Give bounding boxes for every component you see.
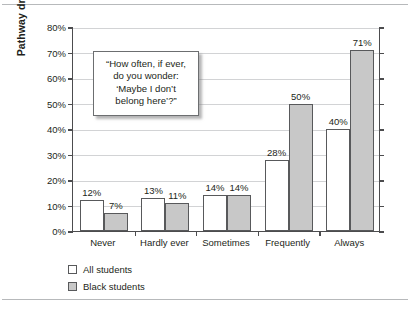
legend-item-all-students: All students	[68, 262, 145, 276]
bar[interactable]	[289, 104, 313, 232]
chart-figure: Pathway dropout 12%7%13%11%14%14%28%50%4…	[0, 0, 410, 312]
annotation-line-1: “How often, if ever,	[100, 58, 192, 70]
tick-left-70	[68, 53, 73, 54]
chart-legend: All students Black students	[68, 262, 145, 296]
bar[interactable]	[203, 195, 227, 231]
x-axis-label-hardly-ever: Hardly ever	[134, 236, 196, 249]
bar[interactable]	[227, 195, 251, 231]
x-axis-label-always: Always	[318, 236, 380, 249]
bar-value-label: 7%	[97, 200, 135, 211]
tick-left-0	[68, 231, 73, 232]
tick-right-10	[379, 206, 384, 207]
legend-swatch-black-students	[68, 282, 77, 291]
figure-top-rule	[2, 4, 408, 5]
y-tick-label-60: 60%	[20, 74, 66, 84]
tick-left-20	[68, 180, 73, 181]
tick-right-40	[379, 129, 384, 130]
y-tick-label-40: 40%	[20, 125, 66, 135]
tick-left-50	[68, 104, 73, 105]
annotation-line-3: ‘Maybe I don’t	[100, 83, 192, 95]
tick-left-80	[68, 27, 73, 28]
annotation-callout: “How often, if ever,do you wonder:‘Maybe…	[93, 51, 199, 116]
bar-value-label: 14%	[220, 182, 258, 193]
annotation-line-4: belong here’?”	[100, 95, 192, 107]
legend-item-black-students: Black students	[68, 279, 145, 293]
tick-left-30	[68, 155, 73, 156]
bar[interactable]	[104, 213, 128, 231]
bar[interactable]	[265, 160, 289, 231]
bar-group: 40%71%	[326, 28, 374, 231]
legend-label-all-students: All students	[83, 264, 132, 275]
tick-right-30	[379, 155, 384, 156]
legend-label-black-students: Black students	[83, 281, 145, 292]
figure-bottom-rule	[2, 299, 408, 300]
tick-left-60	[68, 78, 73, 79]
y-tick-label-80: 80%	[20, 23, 66, 33]
tick-right-70	[379, 53, 384, 54]
bar-value-label: 71%	[343, 37, 381, 48]
annotation-line-2: do you wonder:	[100, 70, 192, 82]
y-tick-label-10: 10%	[20, 202, 66, 212]
y-tick-label-70: 70%	[20, 49, 66, 59]
tick-right-0	[379, 231, 384, 232]
y-tick-label-50: 50%	[20, 100, 66, 110]
x-axis-label-frequently: Frequently	[257, 236, 319, 249]
x-axis-tick-labels: NeverHardly everSometimesFrequentlyAlway…	[72, 236, 380, 252]
x-axis-label-sometimes: Sometimes	[195, 236, 257, 249]
bar[interactable]	[165, 203, 189, 231]
tick-right-80	[379, 27, 384, 28]
bar[interactable]	[141, 198, 165, 231]
y-axis-title: Pathway dropout	[12, 0, 30, 78]
bar-value-label: 11%	[158, 190, 196, 201]
x-axis-label-never: Never	[72, 236, 134, 249]
y-tick-label-20: 20%	[20, 176, 66, 186]
tick-right-20	[379, 180, 384, 181]
y-tick-label-0: 0%	[20, 227, 66, 237]
y-tick-label-30: 30%	[20, 151, 66, 161]
bar-group: 14%14%	[203, 28, 251, 231]
tick-right-50	[379, 104, 384, 105]
legend-swatch-all-students	[68, 265, 77, 274]
bar[interactable]	[326, 129, 350, 231]
tick-left-10	[68, 206, 73, 207]
bar-value-label: 12%	[73, 187, 111, 198]
tick-right-60	[379, 78, 384, 79]
bar-group: 28%50%	[265, 28, 313, 231]
bar[interactable]	[350, 50, 374, 231]
tick-left-40	[68, 129, 73, 130]
bar-value-label: 50%	[282, 91, 320, 102]
